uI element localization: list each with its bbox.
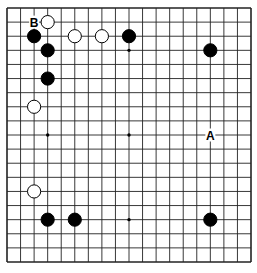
go-board: BA [0,0,257,273]
white-stone-icon [68,30,81,43]
point-label-a: A [206,129,215,143]
white-stone-icon [95,30,108,43]
black-stone-icon [68,213,81,226]
point-label-b: B [30,16,39,30]
hoshi-dot [127,133,130,136]
hoshi-dot [46,133,49,136]
black-stone-icon [122,30,135,43]
black-stone-icon [41,213,54,226]
black-stone-icon [41,72,54,85]
white-stone-icon [28,100,41,113]
white-stone-icon [28,185,41,198]
black-stone-icon [204,44,217,57]
black-stone-icon [204,213,217,226]
hoshi-dot [127,49,130,52]
black-stone-icon [41,44,54,57]
hoshi-dot [127,218,130,221]
white-stone-icon [41,16,54,29]
black-stone-icon [28,30,41,43]
